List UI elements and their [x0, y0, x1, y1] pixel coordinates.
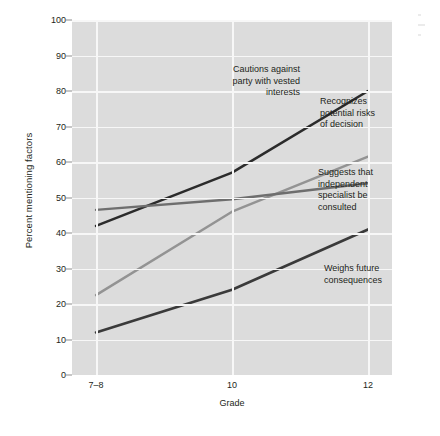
y-tick-label: 0 [26, 370, 66, 380]
y-tick-mark [66, 126, 72, 127]
y-tick-mark [66, 375, 72, 376]
y-tick-mark [66, 233, 72, 234]
y-tick-mark [66, 55, 72, 56]
line-chart-figure: Percent mentioning factors 0102030405060… [0, 0, 440, 436]
y-tick-label: 70 [26, 122, 66, 132]
y-tick-label: 50 [26, 193, 66, 203]
y-tick-label: 60 [26, 157, 66, 167]
x-tick-label: 10 [227, 380, 237, 390]
y-tick-mark [66, 339, 72, 340]
page-margin-artifact [418, 14, 434, 54]
y-tick-label: 20 [26, 299, 66, 309]
y-tick-label: 30 [26, 264, 66, 274]
annotation-recognizes: Recognizes potential risks of decision [320, 96, 420, 131]
y-tick-mark [66, 197, 72, 198]
y-tick-label: 80 [26, 86, 66, 96]
y-tick-label: 40 [26, 228, 66, 238]
annotation-weighs: Weighs future consequences [324, 263, 428, 286]
annotation-suggests: Suggests that independent specialist be … [318, 167, 422, 213]
x-axis-title: Grade [72, 398, 392, 408]
annotation-cautions: Cautions against party with vested inter… [196, 64, 300, 99]
y-tick-label: 100 [26, 15, 66, 25]
y-tick-mark [66, 91, 72, 92]
y-tick-mark [66, 304, 72, 305]
y-tick-mark [66, 162, 72, 163]
x-tick-label: 12 [363, 380, 373, 390]
y-tick-mark [66, 20, 72, 21]
y-tick-mark [66, 268, 72, 269]
y-tick-label: 90 [26, 51, 66, 61]
gridline-vertical [96, 20, 98, 375]
x-tick-label: 7–8 [88, 380, 103, 390]
y-tick-label: 10 [26, 335, 66, 345]
